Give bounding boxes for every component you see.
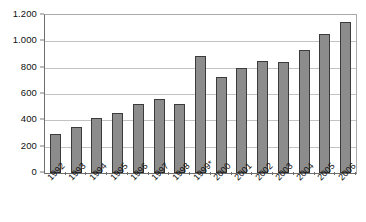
- bar: [278, 62, 289, 173]
- x-axis-tick-mark: [106, 172, 107, 175]
- bar-series: [45, 15, 356, 173]
- y-axis-tick-label: 800: [21, 62, 37, 72]
- bar: [299, 50, 310, 173]
- bar: [195, 56, 206, 173]
- bar: [257, 61, 268, 173]
- bar: [236, 68, 247, 173]
- x-axis-tick-mark: [189, 172, 190, 175]
- bar-chart: 02004006008001.0001.200 1992199319941995…: [0, 0, 366, 222]
- bar: [319, 34, 330, 173]
- plot-area: [44, 14, 357, 174]
- x-axis-labels: 19921993199419951996199719981999*2000200…: [44, 174, 355, 222]
- y-axis-tick-label: 400: [21, 115, 37, 125]
- y-axis-tick-label: 1.000: [13, 36, 37, 46]
- x-axis-tick-mark: [355, 172, 356, 175]
- y-axis-labels: 02004006008001.0001.200: [0, 0, 44, 222]
- y-axis-tick-label: 600: [21, 88, 37, 98]
- bar: [340, 22, 351, 173]
- y-axis-tick-label: 0: [32, 167, 37, 177]
- bar: [216, 77, 227, 173]
- y-axis-tick-label: 200: [21, 141, 37, 151]
- y-axis-tick-label: 1.200: [13, 9, 37, 19]
